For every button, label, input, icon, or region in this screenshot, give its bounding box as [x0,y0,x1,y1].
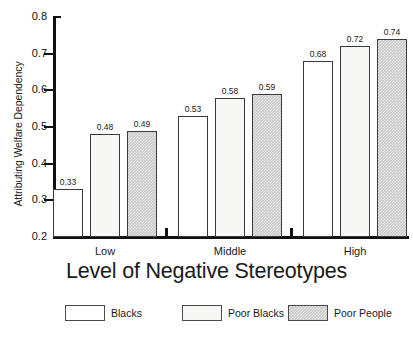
y-axis-tick-label: 0.8 [7,10,47,22]
legend-swatch-icon [182,305,222,321]
y-axis-tick-label: 0.6 [7,83,47,95]
x-axis-category-label: High [310,245,400,257]
legend-item[interactable]: Poor People [288,305,392,321]
legend-label: Poor Blacks [228,307,284,319]
bar [252,94,282,237]
bar [340,46,370,237]
bar-value-label: 0.33 [48,177,88,187]
x-axis-separator-tick [290,228,293,237]
y-axis-tick-label: 0.3 [7,193,47,205]
y-axis-tick-label: 0.2 [7,230,47,242]
bar-value-label: 0.58 [210,86,250,96]
legend-label: Blacks [111,307,142,319]
bar-value-label: 0.48 [85,122,125,132]
y-axis-tick-label: 0.4 [7,157,47,169]
bar-value-label: 0.49 [122,119,162,129]
legend-item[interactable]: Poor Blacks [182,305,284,321]
bar [377,39,407,237]
bar [303,61,333,237]
bar-value-label: 0.74 [372,27,412,37]
plot-area: 0.330.480.490.530.580.590.680.720.74 [53,17,405,237]
bar [53,189,83,237]
bar-value-label: 0.59 [247,82,287,92]
legend-label: Poor People [334,307,392,319]
bar-value-label: 0.68 [298,49,338,59]
x-axis-category-label: Middle [185,245,275,257]
bar-value-label: 0.53 [173,104,213,114]
y-axis-tick-label: 0.5 [7,120,47,132]
x-axis-category-label: Low [60,245,150,257]
bar [215,98,245,237]
bar [90,134,120,237]
bar-chart-figure: Attributing Welfare Dependency 0.20.30.4… [0,0,413,337]
bar-value-label: 0.72 [335,34,375,44]
y-axis-tick-label: 0.7 [7,47,47,59]
legend-item[interactable]: Blacks [65,305,142,321]
bar [127,131,157,237]
legend-swatch-icon [288,305,328,321]
bar [178,116,208,237]
x-axis-separator-tick [165,228,168,237]
legend-swatch-icon [65,305,105,321]
legend: BlacksPoor BlacksPoor People [0,305,413,327]
x-axis-title: Level of Negative Stereotypes [0,259,413,284]
